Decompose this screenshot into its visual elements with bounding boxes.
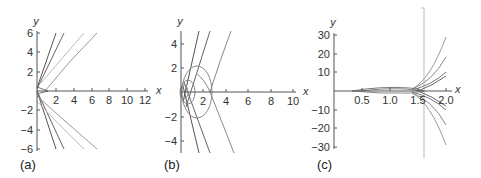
x-tick-label: 0.5 xyxy=(354,94,369,106)
x-tick-label: 10 xyxy=(287,95,299,107)
x-tick-label: 8 xyxy=(106,94,112,106)
x-tick-label: 1.0 xyxy=(382,94,397,106)
x-tick-label: 6 xyxy=(245,95,251,107)
y-tick-label: −2 xyxy=(164,111,177,123)
y-tick-label: 6 xyxy=(27,27,33,39)
panel-label: (a) xyxy=(20,157,36,172)
panel-a: 2 4 6 8 10 12 −6 −4 −2 2 4 6 y x (a) xyxy=(20,15,162,172)
y-axis-label: y xyxy=(176,15,184,27)
x-axis-label: x xyxy=(454,83,461,95)
x-tick-label: 2 xyxy=(53,94,59,106)
y-tick-label: 4 xyxy=(27,46,33,58)
x-tick-label: 2 xyxy=(200,95,206,107)
panel-b-x-axis xyxy=(181,89,296,92)
x-tick-label: 1.5 xyxy=(410,94,425,106)
x-axis-label: x xyxy=(302,85,309,97)
y-tick-label: 20 xyxy=(318,48,330,60)
y-tick-label: 30 xyxy=(318,29,330,41)
x-tick-label: 10 xyxy=(121,94,133,106)
y-tick-label: −4 xyxy=(20,124,33,136)
x-tick-label: 12 xyxy=(139,94,151,106)
x-tick-label: 4 xyxy=(71,94,77,106)
y-tick-label: −6 xyxy=(20,143,33,155)
y-axis-label: y xyxy=(32,15,40,27)
y-tick-label: −4 xyxy=(164,135,177,147)
x-tick-label: 2.0 xyxy=(438,94,453,106)
y-tick-label: −30 xyxy=(311,141,330,153)
panel-label: (c) xyxy=(317,157,332,172)
y-tick-label: −20 xyxy=(311,122,330,134)
y-tick-label: 2 xyxy=(27,66,33,78)
y-tick-label: 4 xyxy=(171,38,177,50)
x-tick-label: 6 xyxy=(89,94,95,106)
y-axis-label: y xyxy=(329,16,337,28)
y-tick-label: 2 xyxy=(171,62,177,74)
y-tick-label: −2 xyxy=(20,104,33,116)
figure: 2 4 6 8 10 12 −6 −4 −2 2 4 6 y x (a) xyxy=(0,0,481,178)
panel-a-x-axis xyxy=(37,88,148,91)
x-axis-label: x xyxy=(155,84,162,96)
x-tick-label: 8 xyxy=(268,95,274,107)
panel-label: (b) xyxy=(164,157,180,172)
panel-c: 0.5 1.0 1.5 2.0 −30 −20 −10 10 20 30 y x… xyxy=(311,8,461,172)
y-tick-label: 10 xyxy=(318,66,330,78)
panel-b: 2 4 6 8 10 −4 −2 2 4 y x (b) xyxy=(164,15,309,172)
x-tick-label: 4 xyxy=(223,95,229,107)
y-tick-label: −10 xyxy=(311,104,330,116)
